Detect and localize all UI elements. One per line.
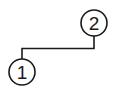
node-2-label: 2	[89, 13, 100, 34]
node-2: 2	[81, 10, 107, 36]
node-1: 1	[9, 59, 35, 85]
node-1-label: 1	[17, 62, 28, 83]
connector-line	[22, 36, 94, 59]
diagram-canvas: 2 1	[0, 0, 118, 96]
